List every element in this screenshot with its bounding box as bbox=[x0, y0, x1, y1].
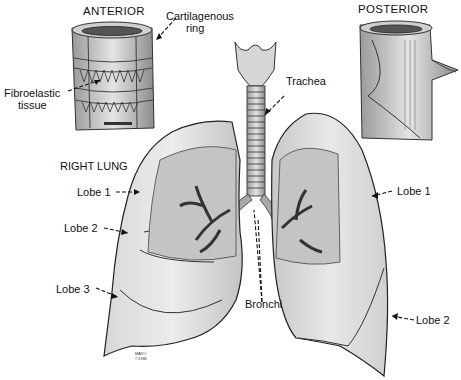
label-right-lobe-3: Lobe 3 bbox=[56, 283, 90, 295]
lung-trachea-illustration bbox=[0, 0, 461, 380]
right-lung bbox=[104, 121, 242, 356]
label-cartilagenous-ring-line2: ring bbox=[186, 22, 204, 34]
anterior-trachea-segment bbox=[72, 22, 154, 130]
artist-signature-line2: ©1986 bbox=[135, 357, 147, 361]
label-fibroelastic-line1: Fibroelastic bbox=[4, 87, 60, 99]
label-right-lobe-2: Lobe 2 bbox=[64, 222, 98, 234]
label-left-lobe-1: Lobe 1 bbox=[397, 185, 431, 197]
label-cartilagenous-ring-line1: Cartilagenous bbox=[166, 10, 234, 22]
anterior-view-heading: ANTERIOR bbox=[83, 5, 145, 17]
right-lung-heading: RIGHT LUNG bbox=[60, 160, 128, 172]
posterior-view-heading: POSTERIOR bbox=[358, 3, 428, 15]
label-trachea: Trachea bbox=[286, 75, 326, 87]
left-lung bbox=[272, 113, 388, 376]
label-right-lobe-1: Lobe 1 bbox=[77, 186, 111, 198]
posterior-trachea-segment bbox=[360, 21, 458, 140]
label-fibroelastic-line2: tissue bbox=[18, 99, 47, 111]
label-left-lobe-2: Lobe 2 bbox=[416, 314, 450, 326]
label-bronchi: Bronchi bbox=[245, 298, 282, 310]
